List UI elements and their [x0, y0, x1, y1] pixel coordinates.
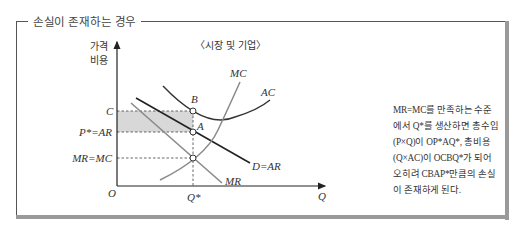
- tick-c: C: [106, 105, 114, 117]
- tick-mr-mc: MR=MC: [71, 152, 112, 164]
- note-line: 오히려 CBAP*만큼의 손실: [393, 166, 505, 182]
- point-a: [190, 129, 196, 135]
- label-mc: MC: [229, 67, 247, 79]
- label-ac: AC: [260, 86, 276, 98]
- loss-region: [117, 111, 193, 132]
- note-line: (Q×AC)이 OCBQ*가 되어: [393, 150, 505, 166]
- label-mr: MR: [224, 175, 241, 187]
- y-axis-label-1: 가격: [90, 40, 108, 52]
- point-mr-mc: [190, 155, 196, 161]
- tick-p-star: P*=AR: [78, 126, 112, 138]
- y-axis-label-2: 비용: [90, 55, 108, 66]
- tick-q-star: Q*: [187, 191, 201, 203]
- label-a: A: [196, 120, 204, 132]
- point-b: [190, 108, 196, 114]
- note-line: (P×Q)이 OP*AQ*, 총비용: [393, 134, 505, 150]
- note-line: MR=MC를 만족하는 수준: [393, 102, 505, 118]
- x-axis-label: Q: [318, 190, 326, 202]
- note-line: 에서 Q*를 생산하면 총수입: [393, 118, 505, 134]
- note-line: 이 존재하게 된다.: [393, 182, 505, 198]
- explanation-note: MR=MC를 만족하는 수준 에서 Q*를 생산하면 총수입 (P×Q)이 OP…: [393, 102, 505, 198]
- label-b: B: [191, 93, 198, 105]
- origin-label: O: [108, 187, 116, 199]
- diagram-title: 〈시장 및 기업〉: [195, 39, 266, 51]
- label-d-ar: D=AR: [251, 160, 281, 172]
